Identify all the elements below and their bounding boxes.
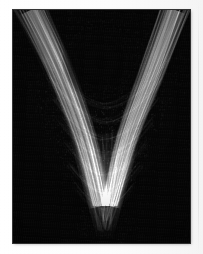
sheet-edge-line	[198, 0, 199, 254]
density-plot-panel	[13, 10, 190, 243]
density-plot-canvas	[13, 10, 190, 243]
figure-viewport	[0, 0, 203, 254]
